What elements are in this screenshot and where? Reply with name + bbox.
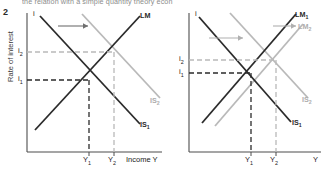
ytick-i1: i1 [18, 74, 23, 85]
x-axis-title-right: Y [313, 155, 318, 164]
ytick-i2: i2 [18, 46, 23, 57]
curve-IS1 [199, 17, 291, 122]
curve-LM [35, 16, 140, 130]
curve-label-IS1: IS1 [292, 118, 302, 128]
xtick-label-Y1: Y1 [83, 155, 91, 166]
ytick-i2: i2 [179, 54, 184, 65]
xtick-label-Y2: Y2 [270, 155, 278, 166]
ytick-i1: i1 [179, 67, 184, 78]
curve-IS2 [230, 13, 308, 98]
x-axis-title-left: Income Y [126, 155, 158, 164]
is-shift-arrow [58, 23, 88, 28]
is-shift-panel: i i2 i1 Y1 Y2 Income Y LM IS1 IS2 [0, 0, 163, 174]
curve-label-LM: LM [140, 11, 150, 20]
curve-label-LM1: LM1 [295, 10, 308, 20]
curve-label-LM2: LM2 [298, 22, 311, 32]
curve-label-IS2: IS2 [302, 95, 312, 105]
curve-IS2 [82, 14, 160, 98]
y-axis-symbol: i [33, 9, 35, 18]
curve-label-IS1: IS1 [140, 120, 150, 130]
is-shift-arrow [209, 35, 243, 40]
curve-label-IS2: IS2 [150, 96, 160, 106]
xtick-label-Y2: Y2 [108, 155, 116, 166]
xtick-label-Y1: Y1 [245, 155, 253, 166]
figure-root: the relation with a simple quantity theo… [0, 0, 325, 174]
left-plot-svg [0, 0, 163, 174]
lm-shift-panel: i i2 i1 Y1 Y2 Y LM1 LM2 IS1 IS2 [163, 0, 325, 174]
y-axis-symbol: i [195, 9, 197, 18]
curve-LM2 [215, 24, 303, 126]
